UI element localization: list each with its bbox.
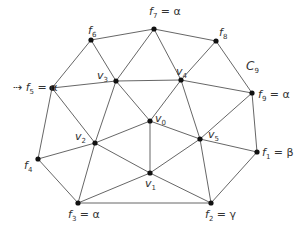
label-v5: v5 — [208, 129, 219, 143]
label-v4: v4 — [176, 66, 187, 80]
label-f1: f1 = β — [262, 147, 294, 161]
edge-v4-v5 — [181, 80, 200, 139]
label-f6: f6 — [88, 25, 96, 39]
edge-v3-v4 — [116, 80, 181, 81]
edge-v2-v1 — [95, 143, 150, 173]
node-v5 — [197, 136, 202, 141]
label-f8: f8 — [219, 27, 227, 41]
edge-v3-v0 — [116, 81, 150, 121]
node-v1 — [147, 170, 152, 175]
label-f7: f7 = α — [149, 6, 181, 20]
edge-f5-v2 — [52, 88, 95, 143]
node-v2 — [92, 140, 97, 145]
label-f2: f2 = γ — [205, 209, 236, 223]
node-v0 — [147, 118, 152, 123]
edge-f2-v5 — [200, 139, 211, 203]
edge-f6-f7 — [91, 29, 154, 40]
node-f3 — [75, 200, 80, 205]
node-f2 — [208, 200, 213, 205]
edge-f5-f6 — [52, 40, 91, 88]
edge-f7-v3 — [116, 29, 154, 81]
node-v3 — [113, 78, 118, 83]
label-f3: f3 = α — [68, 209, 100, 223]
edge-v1-f2 — [150, 173, 211, 203]
edge-f3-v1 — [78, 173, 150, 203]
edge-f3-v2 — [78, 143, 95, 203]
edge-v4-f9 — [181, 80, 252, 93]
edge-v3-v2 — [95, 81, 116, 143]
node-f4 — [35, 156, 40, 161]
region-label-c9: C9 — [246, 60, 259, 75]
edge-v2-v0 — [95, 121, 150, 143]
label-f4: f4 — [24, 160, 32, 174]
edge-f4-f5 — [38, 88, 52, 159]
node-f7 — [151, 26, 156, 31]
node-f8 — [213, 38, 218, 43]
edge-f3-f4 — [38, 159, 78, 203]
label-v0: v0 — [155, 113, 166, 127]
label-v1: v1 — [145, 178, 156, 192]
node-f9 — [249, 90, 254, 95]
label-v3: v3 — [97, 70, 108, 84]
edge-f1-f2 — [211, 152, 257, 203]
label-f5: ⇢ f5 = α — [13, 82, 58, 96]
edge-f9-f1 — [252, 93, 257, 152]
edge-f4-v2 — [38, 143, 95, 159]
edge-f7-f8 — [154, 29, 216, 41]
node-f1 — [254, 149, 259, 154]
triangulation-graph — [0, 0, 297, 229]
label-f9: f9 = α — [258, 89, 290, 103]
edge-v1-v5 — [150, 139, 200, 173]
label-v2: v2 — [75, 131, 86, 145]
